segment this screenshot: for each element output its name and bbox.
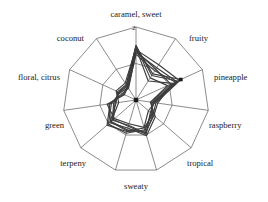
axis-spoke-4 [136, 100, 191, 148]
radar-chart: 2 1 caramel, sweet fruity pineapple rasp… [0, 0, 268, 202]
axis-label-sweaty: sweaty [124, 181, 149, 191]
axis-spoke-8 [64, 100, 136, 110]
axis-label-caramel-sweet: caramel, sweet [110, 9, 162, 19]
axis-label-tropical: tropical [187, 158, 214, 168]
axis-label-green: green [45, 120, 65, 130]
axis-label-pineapple: pineapple [214, 72, 248, 82]
radar-chart-svg: 2 1 caramel, sweet fruity pineapple rasp… [0, 0, 268, 202]
tick-label-2: 2 [132, 24, 136, 32]
pineapple-peak-marker [179, 78, 183, 82]
axis-label-floral-citrus: floral, citrus [18, 72, 61, 82]
axis-label-fruity: fruity [189, 33, 209, 43]
axis-label-raspberry: raspberry [209, 120, 242, 130]
series-layer [107, 45, 181, 135]
axis-label-layer: caramel, sweet fruity pineapple raspberr… [18, 9, 248, 191]
tick-label-1: 1 [131, 60, 135, 68]
center-marker [134, 98, 138, 102]
axis-label-terpeny: terpeny [60, 158, 86, 168]
axis-label-coconut: coconut [57, 33, 85, 43]
axis-spoke-3 [136, 100, 208, 110]
